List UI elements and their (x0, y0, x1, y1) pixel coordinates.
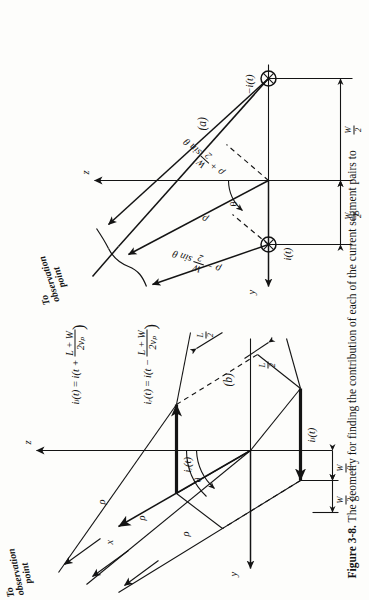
panel-b-equation-1: iₗ(t) = i(t + L + W2vₚ) (64, 324, 86, 404)
panel-b-l-upper-den: 2 (206, 331, 215, 338)
equation-1-rhs-tail: ) (69, 324, 87, 329)
panel-a-dimension-right: W2 (344, 125, 363, 134)
panel-b-l-upper-num: L (196, 331, 206, 338)
panel-b-current-left-label: iₗ(t) (306, 427, 317, 442)
panel-b-theta-label: θ (192, 477, 203, 482)
equation-1-rhs-head: i(t + (70, 356, 81, 378)
panel-a-geometry: z y θ i(t) −i(t) W2 W2 ρ − W2 sin θ ρ ρ … (0, 48, 369, 310)
rotated-scan-content: z x y θ iᵣ(t) iₗ(t) ρ ρ ρ W2 W2 L2 L2 To… (0, 0, 369, 600)
equation-1-rhs-num: L + W (64, 330, 75, 357)
equation-2-lhs: iᵣ(t) (142, 389, 153, 404)
panel-b-equation-2: iᵣ(t) = i(t − L + W2vₚ) (136, 323, 158, 404)
panel-a-label: (a) (196, 117, 208, 130)
panel-b-linework (0, 300, 369, 600)
panel-a-source-left-label: i(t) (282, 247, 293, 260)
equation-2-rhs-num: L + W (136, 329, 147, 356)
equation-1-rhs-den: 2vₚ (75, 330, 85, 357)
panel-b-current-right-label: iᵣ(t) (182, 457, 193, 472)
panel-a-y-axis-label: y (246, 289, 257, 294)
panel-b-dimension-l-upper: L2 (196, 331, 215, 338)
panel-b-y-axis-label: y (228, 571, 239, 576)
panel-b-rho-label-2: ρ (136, 515, 147, 520)
panel-b-l-lower-den: 2 (268, 361, 277, 368)
panel-b-z-axis-label: z (22, 440, 33, 444)
equation-2-rhs-den: 2vₚ (147, 329, 157, 356)
panel-b-l-lower-num: L (258, 361, 268, 368)
panel-b-dimension-l-lower: L2 (258, 361, 277, 368)
panel-b-label: (b) (222, 373, 234, 386)
panel-b-rho-label-1: ρ (96, 499, 107, 504)
equation-2-rhs-tail: ) (141, 323, 159, 328)
panel-a-ray-far-suffix: sin θ (170, 248, 195, 266)
figure-caption-text: The geometry for finding the contributio… (345, 150, 357, 522)
panel-a-dim-right-den: 2 (354, 125, 363, 134)
panel-a-z-axis-label: z (80, 170, 91, 174)
figure-number: Figure 3-8. (345, 525, 357, 578)
figure-caption: Figure 3-8. The geometry for finding the… (344, 150, 358, 578)
panel-a-source-right-label: −i(t) (244, 74, 255, 94)
equation-2-rhs-head: i(t − (142, 356, 153, 378)
panel-a-dim-right-num: W (344, 125, 354, 134)
equation-1-equals: = (70, 381, 81, 387)
panel-b-x-axis-label: x (104, 539, 115, 544)
figure-page: z x y θ iᵣ(t) iₗ(t) ρ ρ ρ W2 W2 L2 L2 To… (0, 0, 369, 600)
equation-2-equals: = (142, 380, 153, 386)
panel-b-rho-label-3: ρ (180, 531, 191, 536)
equation-1-lhs: iₗ(t) (70, 389, 81, 404)
panel-b-geometry: z x y θ iᵣ(t) iₗ(t) ρ ρ ρ W2 W2 L2 L2 To… (0, 300, 369, 600)
panel-a-theta-label: θ (228, 201, 239, 206)
